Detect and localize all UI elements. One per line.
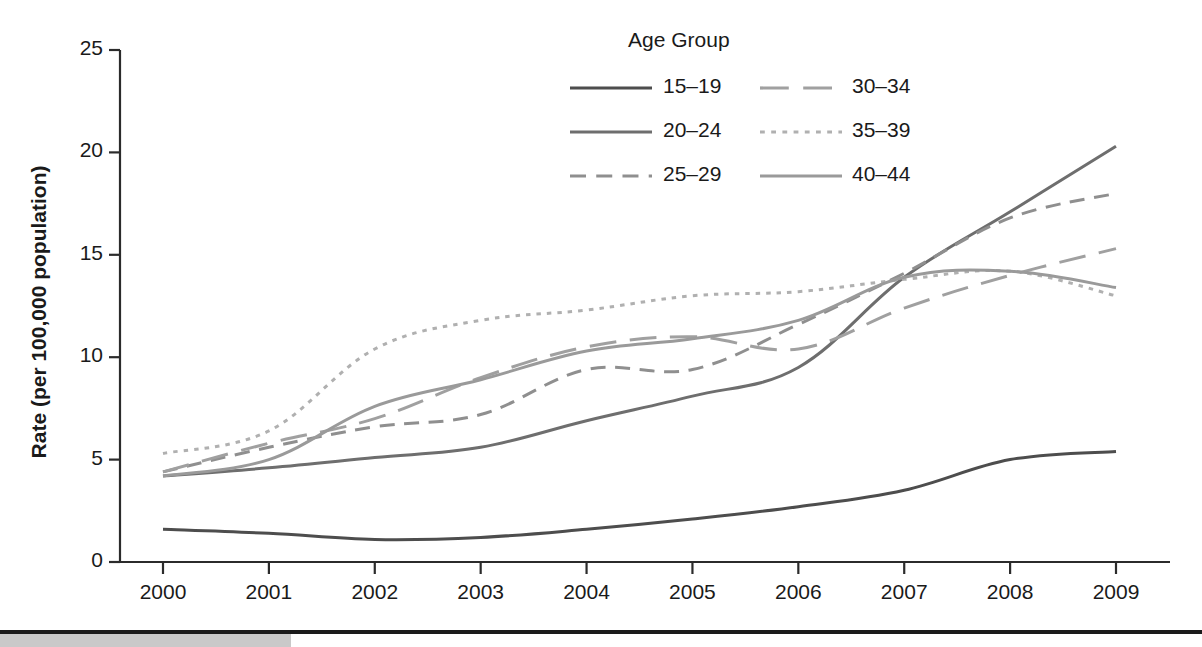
x-axis-tick-label: 2004 <box>547 580 627 604</box>
legend-label-20-24: 20–24 <box>663 118 721 142</box>
y-axis-tick-label: 20 <box>57 138 103 162</box>
x-axis-tick-label: 2003 <box>441 580 521 604</box>
x-axis-tick-label: 2002 <box>335 580 415 604</box>
footer-gray-bar <box>0 634 291 647</box>
line-chart-figure: Rate (per 100,000 population) Age Group … <box>0 0 1202 647</box>
legend-label-25-29: 25–29 <box>663 162 721 186</box>
x-axis-tick-label: 2006 <box>758 580 838 604</box>
x-axis-tick-label: 2009 <box>1076 580 1156 604</box>
legend-label-40-44: 40–44 <box>852 162 910 186</box>
x-axis-tick-label: 2007 <box>864 580 944 604</box>
x-axis-tick-label: 2000 <box>123 580 203 604</box>
x-axis-tick-label: 2008 <box>970 580 1050 604</box>
series-line-30-34 <box>163 249 1116 472</box>
y-axis-tick-label: 25 <box>57 36 103 60</box>
legend-label-35-39: 35–39 <box>852 118 910 142</box>
x-axis-tick-label: 2001 <box>229 580 309 604</box>
y-axis-tick-label: 15 <box>57 241 103 265</box>
y-axis-tick-label: 5 <box>57 446 103 470</box>
y-axis-tick-label: 10 <box>57 343 103 367</box>
series-line-40-44 <box>163 270 1116 476</box>
series-line-20-24 <box>163 146 1116 476</box>
x-axis-tick-label: 2005 <box>652 580 732 604</box>
legend-title: Age Group <box>628 28 730 52</box>
series-line-35-39 <box>163 271 1116 454</box>
y-axis-tick-label: 0 <box>57 548 103 572</box>
legend-label-15-19: 15–19 <box>663 74 721 98</box>
plot-area <box>0 0 1202 647</box>
legend-label-30-34: 30–34 <box>852 74 910 98</box>
